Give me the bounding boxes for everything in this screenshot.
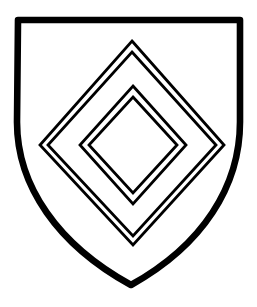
- heraldic-shield-illustration: Heraldic shield with two voided lozenges…: [0, 0, 257, 307]
- shield-drawing-canvas: Heraldic shield with two voided lozenges: [0, 0, 257, 307]
